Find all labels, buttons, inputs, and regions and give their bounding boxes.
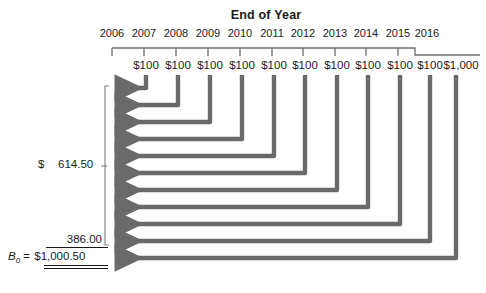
b0-symbol: B [8, 250, 16, 262]
discount-arrow-3 [118, 75, 210, 122]
final-discounted-value: 386.00 [58, 233, 102, 245]
present-value-amount: 614.50 [58, 158, 93, 170]
discount-arrow-9 [118, 75, 400, 224]
present-value-currency: $ [38, 158, 44, 170]
discount-arrows [118, 75, 456, 258]
b0-equals: = [20, 250, 33, 262]
double-underline-top [44, 265, 108, 266]
discount-arrow-11 [118, 75, 456, 258]
sum-rule [46, 247, 108, 248]
bond-value-total-row: B0 = $1,000.50 [8, 250, 86, 265]
axis-line [112, 48, 480, 55]
timeline-axis [112, 48, 480, 56]
double-underline-bottom [44, 268, 108, 269]
b0-total-value: $1,000.50 [33, 250, 86, 262]
discount-arrow-1 [118, 75, 146, 88]
cash-flow-timeline-diagram: End of Year 2006 2007 2008 2009 2010 201… [0, 0, 486, 293]
